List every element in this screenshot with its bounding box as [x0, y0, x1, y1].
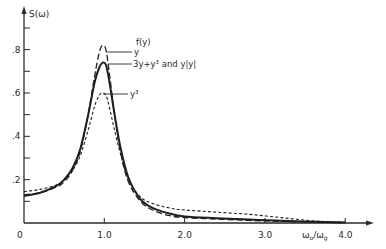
x-tick-label: 0: [17, 230, 23, 240]
y-ticks: .2.4.6.8: [12, 28, 30, 201]
x-axis-arrow-icon: [366, 221, 374, 226]
x-tick-label: 1.0: [97, 230, 112, 240]
legend-header: f(y): [136, 37, 151, 47]
x-axis-label-subg: g: [324, 234, 328, 242]
x-axis-label: ωo/ωg: [302, 230, 328, 242]
y-tick-label: .6: [12, 88, 21, 98]
x-axis-label-omega0: ω: [302, 230, 310, 240]
chart: 01.02.03.04.0 .2.4.6.8 S(ω) ωo/ωg f(y) y…: [0, 0, 386, 249]
y-tick-label: .2: [12, 175, 21, 185]
y-tick-label: .4: [12, 131, 21, 141]
x-tick-label: 4.0: [338, 230, 353, 240]
series-line-short-dash: [24, 93, 345, 222]
x-tick-label: 2.0: [178, 230, 193, 240]
legend-label-3y: 3y+y³ and y|y|: [133, 59, 196, 69]
y-axis-arrow-icon: [22, 6, 27, 14]
y-axis-label: S(ω): [29, 9, 49, 19]
curves: [24, 45, 345, 222]
legend-label-y: y: [134, 47, 139, 57]
series-line-long-dash: [24, 45, 345, 222]
axes: [22, 6, 375, 226]
y-tick-label: .8: [12, 45, 21, 55]
series-line-solid: [24, 62, 345, 222]
legend: f(y) y 3y+y³ and y|y| y³: [103, 37, 196, 99]
x-tick-label: 3.0: [258, 230, 273, 240]
legend-label-y3: y³: [130, 89, 138, 99]
x-axis-label-slash: /ω: [313, 230, 324, 240]
